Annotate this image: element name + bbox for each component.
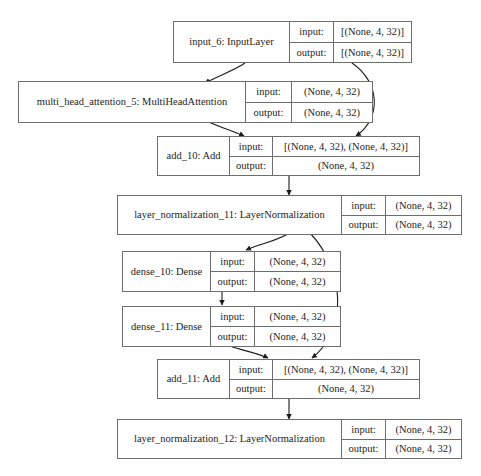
node-layer-normalization-11[interactable]: layer_normalization_11: LayerNormalizati… xyxy=(117,195,462,235)
edge-ln11-to-dense10 xyxy=(246,233,289,250)
io-row-output: output: (None, 4, 32) xyxy=(342,440,461,459)
node-dense-11[interactable]: dense_11: Dense input: (None, 4, 32) out… xyxy=(122,306,341,347)
io-value-output: (None, 4, 32) xyxy=(386,216,461,235)
edge-dense11-to-add11 xyxy=(230,346,268,358)
io-value-output: (None, 4, 32) xyxy=(292,103,372,123)
node-input-6-label: input_6: InputLayer xyxy=(174,22,290,62)
io-row-output: output: (None, 4, 32) xyxy=(246,103,372,123)
io-value-output: (None, 4, 32) xyxy=(273,157,419,176)
node-add-10-io: input: [(None, 4, 32), (None, 4, 32)] ou… xyxy=(230,137,419,175)
io-label-input: input: xyxy=(211,307,255,326)
io-row-output: output: [(None, 4, 32)] xyxy=(290,43,411,63)
node-add-11[interactable]: add_11: Add input: [(None, 4, 32), (None… xyxy=(157,359,420,399)
io-row-input: input: [(None, 4, 32), (None, 4, 32)] xyxy=(230,360,419,380)
io-label-input: input: xyxy=(246,82,292,102)
io-row-input: input: (None, 4, 32) xyxy=(211,252,340,272)
io-label-output: output: xyxy=(230,380,273,399)
node-multi-head-attention-5-label: multi_head_attention_5: MultiHeadAttenti… xyxy=(19,82,246,122)
io-label-output: output: xyxy=(211,272,255,291)
io-label-output: output: xyxy=(211,327,255,346)
io-value-output: (None, 4, 32) xyxy=(386,440,461,459)
node-dense-10-label: dense_10: Dense xyxy=(123,252,211,291)
io-label-input: input: xyxy=(290,22,334,42)
io-value-input: [(None, 4, 32)] xyxy=(334,22,411,42)
node-layer-normalization-11-label: layer_normalization_11: LayerNormalizati… xyxy=(118,196,342,234)
model-diagram-canvas: input_6: InputLayer input: [(None, 4, 32… xyxy=(0,0,481,476)
io-row-input: input: (None, 4, 32) xyxy=(211,307,340,327)
io-label-input: input: xyxy=(230,360,273,379)
io-value-input: (None, 4, 32) xyxy=(386,196,461,215)
io-value-input: (None, 4, 32) xyxy=(255,252,340,271)
node-add-10-label: add_10: Add xyxy=(158,137,230,175)
io-row-output: output: (None, 4, 32) xyxy=(342,216,461,235)
node-dense-11-label: dense_11: Dense xyxy=(123,307,211,346)
node-layer-normalization-12-io: input: (None, 4, 32) output: (None, 4, 3… xyxy=(342,420,461,458)
node-dense-10-io: input: (None, 4, 32) output: (None, 4, 3… xyxy=(211,252,340,291)
io-value-input: (None, 4, 32) xyxy=(255,307,340,326)
io-row-input: input: (None, 4, 32) xyxy=(342,196,461,216)
node-layer-normalization-12[interactable]: layer_normalization_12: LayerNormalizati… xyxy=(117,419,462,459)
io-row-input: input: [(None, 4, 32)] xyxy=(290,22,411,43)
io-row-input: input: (None, 4, 32) xyxy=(246,82,372,103)
io-row-input: input: (None, 4, 32) xyxy=(342,420,461,440)
node-layer-normalization-12-label: layer_normalization_12: LayerNormalizati… xyxy=(118,420,342,458)
io-label-output: output: xyxy=(342,216,386,235)
node-add-11-label: add_11: Add xyxy=(158,360,230,398)
node-input-6[interactable]: input_6: InputLayer input: [(None, 4, 32… xyxy=(173,21,412,63)
io-value-input: [(None, 4, 32), (None, 4, 32)] xyxy=(273,137,419,156)
io-row-output: output: (None, 4, 32) xyxy=(230,157,419,176)
io-label-input: input: xyxy=(211,252,255,271)
io-value-output: (None, 4, 32) xyxy=(273,380,419,399)
edge-input6-to-mha xyxy=(205,63,245,83)
io-value-input: (None, 4, 32) xyxy=(292,82,372,102)
io-label-input: input: xyxy=(230,137,273,156)
io-label-output: output: xyxy=(230,157,273,176)
node-layer-normalization-11-io: input: (None, 4, 32) output: (None, 4, 3… xyxy=(342,196,461,234)
io-value-output: [(None, 4, 32)] xyxy=(334,43,411,63)
io-label-input: input: xyxy=(342,196,386,215)
node-add-10[interactable]: add_10: Add input: [(None, 4, 32), (None… xyxy=(157,136,420,176)
node-add-11-io: input: [(None, 4, 32), (None, 4, 32)] ou… xyxy=(230,360,419,398)
io-label-output: output: xyxy=(290,43,334,63)
edge-layer xyxy=(0,0,481,476)
io-value-output: (None, 4, 32) xyxy=(255,272,340,291)
io-value-input: (None, 4, 32) xyxy=(386,420,461,439)
io-value-input: [(None, 4, 32), (None, 4, 32)] xyxy=(273,360,419,379)
io-label-input: input: xyxy=(342,420,386,439)
io-value-output: (None, 4, 32) xyxy=(255,327,340,346)
io-row-output: output: (None, 4, 32) xyxy=(230,380,419,399)
node-input-6-io: input: [(None, 4, 32)] output: [(None, 4… xyxy=(290,22,411,62)
node-multi-head-attention-5-io: input: (None, 4, 32) output: (None, 4, 3… xyxy=(246,82,372,122)
io-row-input: input: [(None, 4, 32), (None, 4, 32)] xyxy=(230,137,419,157)
node-dense-10[interactable]: dense_10: Dense input: (None, 4, 32) out… xyxy=(122,251,341,292)
io-row-output: output: (None, 4, 32) xyxy=(211,272,340,291)
io-label-output: output: xyxy=(246,103,292,123)
io-row-output: output: (None, 4, 32) xyxy=(211,327,340,346)
node-dense-11-io: input: (None, 4, 32) output: (None, 4, 3… xyxy=(211,307,340,346)
node-multi-head-attention-5[interactable]: multi_head_attention_5: MultiHeadAttenti… xyxy=(18,81,373,123)
io-label-output: output: xyxy=(342,440,386,459)
